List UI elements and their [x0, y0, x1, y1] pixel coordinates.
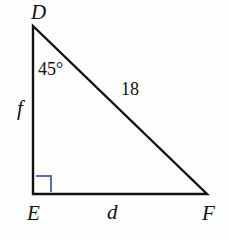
vertex-label-e: E: [27, 203, 40, 224]
right-angle-marker-icon: [36, 176, 51, 192]
side-label-df-hypotenuse: 18: [121, 80, 139, 98]
triangle-outline: [33, 26, 207, 194]
angle-label-d: 45°: [38, 60, 63, 78]
side-label-de: f: [17, 98, 23, 119]
vertex-label-d: D: [31, 2, 46, 23]
side-label-ef: d: [107, 202, 118, 223]
vertex-label-f: F: [202, 203, 215, 224]
